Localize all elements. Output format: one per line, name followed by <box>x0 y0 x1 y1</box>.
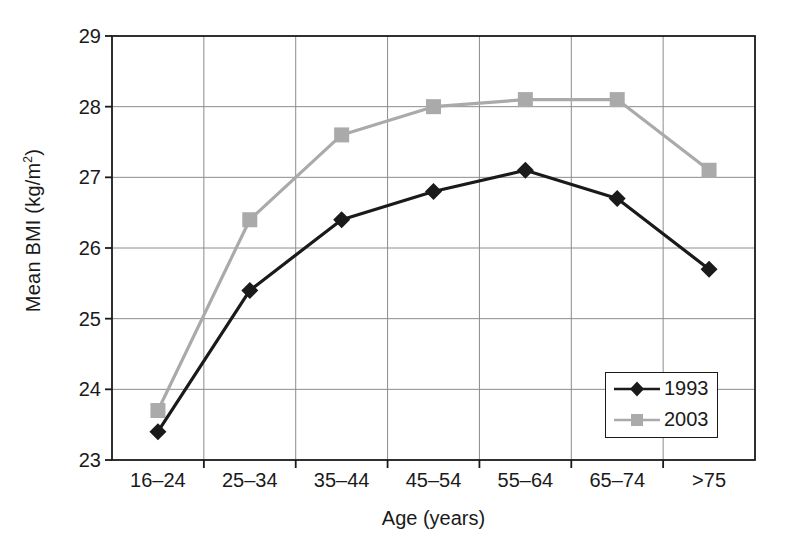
data-point-marker[interactable] <box>149 423 166 440</box>
y-axis-tick-label: 28 <box>57 97 101 117</box>
y-axis-tick-label: 26 <box>57 238 101 258</box>
data-point-marker[interactable] <box>518 92 533 107</box>
legend-symbol-1993 <box>612 376 662 402</box>
data-point-marker[interactable] <box>610 92 625 107</box>
data-point-marker[interactable] <box>425 183 442 200</box>
data-point-marker[interactable] <box>517 162 534 179</box>
y-axis-tick-label: 29 <box>57 26 101 46</box>
data-point-marker[interactable] <box>334 127 349 142</box>
data-point-marker[interactable] <box>242 212 257 227</box>
y-axis-tick-label: 27 <box>57 167 101 187</box>
legend-label-1993: 1993 <box>664 378 709 398</box>
y-axis-tick-label: 23 <box>57 450 101 470</box>
chart-figure: Mean BMI (kg/m2) Age (years) 23242526272… <box>0 0 797 548</box>
x-axis-tick-label: 65–74 <box>571 470 663 490</box>
series-line-2003 <box>158 100 709 411</box>
y-axis-tick-label: 25 <box>57 309 101 329</box>
x-axis-tick-label: 16–24 <box>112 470 204 490</box>
x-axis-tick-label: 55–64 <box>479 470 571 490</box>
x-axis-tick-label: 25–34 <box>204 470 296 490</box>
data-point-marker[interactable] <box>150 403 165 418</box>
y-axis-tick-label: 24 <box>57 379 101 399</box>
x-axis-tick-label: >75 <box>663 470 755 490</box>
x-axis-tick-label: 35–44 <box>296 470 388 490</box>
legend-item-2003[interactable]: 2003 <box>606 404 719 437</box>
x-axis-tick-label: 45–54 <box>388 470 480 490</box>
legend-item-1993[interactable]: 1993 <box>606 373 719 406</box>
legend-symbol-2003 <box>612 407 662 433</box>
legend-label-2003: 2003 <box>664 409 709 429</box>
data-point-marker[interactable] <box>426 99 441 114</box>
data-point-marker[interactable] <box>702 163 717 178</box>
plot-canvas <box>0 0 797 548</box>
chart-legend: 1993 2003 <box>605 372 718 438</box>
